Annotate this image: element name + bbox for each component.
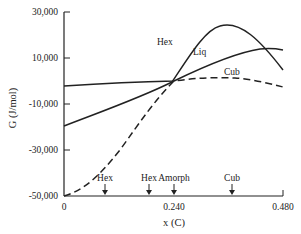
y-tick-label: 10,000 [32, 53, 58, 63]
x-axis-title: x (C) [163, 217, 185, 229]
y-axis-title: G (J/mol) [7, 87, 19, 128]
phase-arrow-hex-2: Hex [141, 173, 157, 195]
gibbs-energy-chart: 30,000 10,000 -10,000 -30,000 -50,000 0 … [0, 0, 301, 234]
y-tick-label: -10,000 [29, 99, 59, 109]
y-ticks [64, 12, 70, 150]
cub-curve-label: Cub [224, 67, 240, 77]
y-tick-label: 30,000 [32, 7, 58, 17]
x-tick-label: 0.240 [163, 202, 185, 212]
x-tick-label: 0.480 [272, 202, 294, 212]
y-tick-label: -30,000 [29, 145, 59, 155]
hex-curve [64, 25, 283, 126]
phase-arrow-amorph: Amorph [158, 173, 190, 195]
phase-arrow-hex-1: Hex [97, 173, 113, 195]
x-tick-label: 0 [62, 202, 67, 212]
liq-curve-label: Liq [193, 47, 206, 57]
phase-arrow-cub: Cub [224, 173, 240, 195]
svg-text:Cub: Cub [224, 173, 240, 183]
svg-text:Amorph: Amorph [158, 173, 190, 183]
y-tick-label: -50,000 [29, 191, 59, 201]
hex-curve-label: Hex [157, 37, 173, 47]
svg-text:Hex: Hex [97, 173, 113, 183]
svg-text:Hex: Hex [141, 173, 157, 183]
